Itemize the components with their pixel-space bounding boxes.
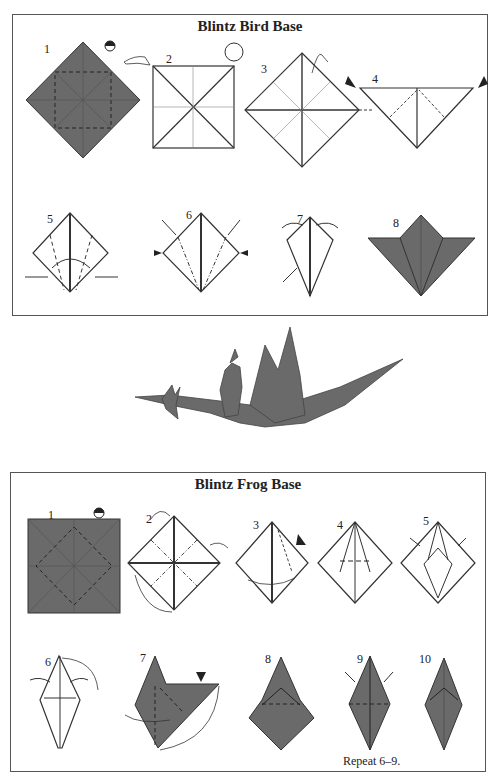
bird-base-title: Blintz Bird Base bbox=[13, 18, 487, 35]
dragon-figure bbox=[100, 315, 420, 445]
bird-base-panel: Blintz Bird Base bbox=[12, 14, 488, 316]
frog-base-title: Blintz Frog Base bbox=[11, 476, 485, 493]
dragon-image bbox=[100, 315, 420, 445]
frog-base-panel: Blintz Frog Base bbox=[10, 472, 486, 772]
